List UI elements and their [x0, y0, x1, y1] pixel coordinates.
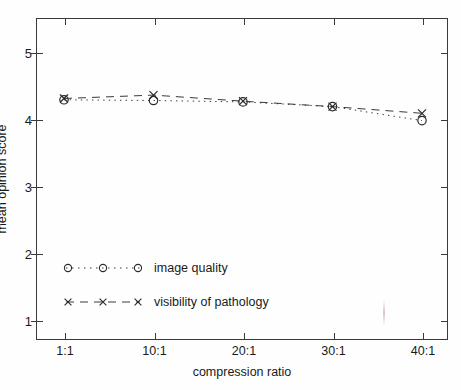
y-tick-mark-right — [441, 254, 447, 255]
y-tick-label: 5 — [25, 46, 32, 59]
x-tick-label: 40:1 — [411, 345, 435, 358]
x-tick-label: 1:1 — [56, 345, 73, 358]
legend-label-image-quality: image quality — [154, 260, 228, 276]
x-tick-mark — [155, 333, 156, 339]
x-tick-mark — [244, 333, 245, 339]
chart-figure: mean opinion score compression ratio 543… — [0, 0, 461, 390]
chart-legend: image quality visibility of pathology — [62, 258, 302, 326]
x-axis-title: compression ratio — [193, 365, 292, 379]
y-tick-mark-inner — [37, 120, 43, 121]
y-tick-mark-right — [441, 120, 447, 121]
x-tick-mark-top — [423, 19, 424, 25]
y-axis-title-label: mean opinion score — [0, 124, 9, 233]
legend-entry-image-quality: image quality — [62, 258, 302, 292]
x-tick-label: 30:1 — [321, 345, 345, 358]
y-tick-label: 1 — [25, 314, 32, 327]
circle-marker-sample-icon — [62, 258, 144, 278]
x-tick-mark — [334, 333, 335, 339]
x-tick-mark — [65, 333, 66, 339]
y-tick-mark-inner — [37, 53, 43, 54]
y-tick-mark-right — [441, 187, 447, 188]
y-tick-label: 3 — [25, 180, 32, 193]
x-tick-mark-top — [334, 19, 335, 25]
x-tick-mark — [423, 333, 424, 339]
y-tick-label: 2 — [25, 247, 32, 260]
x-tick-mark-top — [155, 19, 156, 25]
y-tick-mark-right — [441, 321, 447, 322]
y-tick-mark-inner — [37, 254, 43, 255]
y-tick-mark-inner — [37, 321, 43, 322]
legend-entry-visibility-of-pathology: visibility of pathology — [62, 292, 302, 326]
x-tick-mark-top — [244, 19, 245, 25]
y-tick-mark-inner — [37, 187, 43, 188]
x-marker-sample-icon — [62, 292, 144, 312]
x-tick-label: 20:1 — [232, 345, 256, 358]
x-tick-label: 10:1 — [142, 345, 166, 358]
y-axis-title: mean opinion score — [0, 124, 9, 233]
y-tick-label: 4 — [25, 113, 32, 126]
legend-label-visibility-of-pathology: visibility of pathology — [154, 294, 269, 310]
x-tick-mark-top — [65, 19, 66, 25]
scan-artifact — [383, 300, 385, 326]
y-tick-mark-right — [441, 53, 447, 54]
